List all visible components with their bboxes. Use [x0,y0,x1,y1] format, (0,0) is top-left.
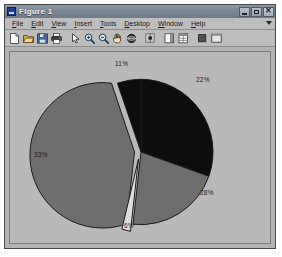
menu-label: dit [36,20,43,27]
toolbar-separator [64,32,68,45]
figure-window: Figure 1 ✕ File Edit View Insert Tools D… [4,4,276,249]
pie-label-33: 33% [34,151,48,158]
data-cursor-icon[interactable] [144,32,157,45]
menu-item-insert[interactable]: Insert [70,18,96,29]
toolbar [5,30,275,47]
toolbar-separator [191,32,195,45]
pie-label-11: 11% [115,60,128,67]
pie-label-6: 6% [124,222,134,229]
pie-axes: 11% 22% 28% 6% 33% [10,52,270,243]
insert-colorbar-icon[interactable] [163,32,176,45]
menu-label: esktop [129,20,150,27]
window-controls: ✕ [239,7,274,17]
open-file-icon[interactable] [22,32,35,45]
menu-label: nsert [76,20,92,27]
show-plot-tools-icon[interactable] [210,32,223,45]
zoom-out-icon[interactable] [97,32,110,45]
menu-item-tools[interactable]: Tools [96,18,120,29]
menu-label: ools [103,20,116,27]
save-figure-icon[interactable] [36,32,49,45]
close-button[interactable]: ✕ [263,7,274,17]
menu-item-window[interactable]: Window [154,18,187,29]
pie-label-28: 28% [200,189,214,196]
pie-chart [10,52,271,244]
print-figure-icon[interactable] [50,32,63,45]
menu-mnemonic: W [158,20,165,27]
menu-item-desktop[interactable]: Desktop [120,18,154,29]
toolbar-separator [139,32,143,45]
matlab-figure-icon [7,7,16,16]
menu-item-view[interactable]: View [47,18,70,29]
pie-label-22: 22% [196,76,210,83]
menu-item-edit[interactable]: Edit [27,18,47,29]
window-title: Figure 1 [19,7,53,16]
new-figure-icon[interactable] [8,32,21,45]
chevron-down-icon[interactable] [266,21,272,25]
toolbar-separator [158,32,162,45]
edit-plot-pointer-icon[interactable] [69,32,82,45]
zoom-in-icon[interactable] [83,32,96,45]
menu-label: elp [196,20,205,27]
hide-plot-tools-icon[interactable] [196,32,209,45]
rotate-3d-icon[interactable] [125,32,138,45]
menu-bar: File Edit View Insert Tools Desktop Wind… [5,18,275,30]
maximize-button[interactable] [251,7,262,17]
pan-hand-icon[interactable] [111,32,124,45]
minimize-button[interactable] [239,7,250,17]
title-bar[interactable]: Figure 1 ✕ [5,5,275,18]
menu-label: indow [165,20,183,27]
close-icon: ✕ [264,7,273,15]
menu-label: iew [56,20,67,27]
menu-item-help[interactable]: Help [187,18,209,29]
figure-canvas[interactable]: 11% 22% 28% 6% 33% [9,51,271,244]
menu-label: ile [16,20,23,27]
menu-item-file[interactable]: File [8,18,27,29]
insert-legend-icon[interactable] [177,32,190,45]
